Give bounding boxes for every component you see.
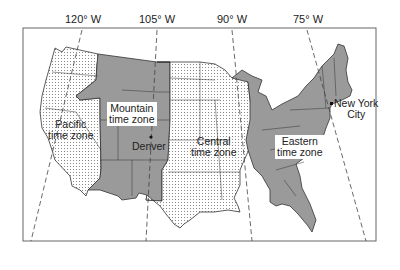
longitude-label-90w: 90° W bbox=[217, 13, 247, 25]
eastern-zone-label: Eastern time zone bbox=[275, 135, 325, 159]
new-york-label: New York City bbox=[334, 98, 378, 120]
time-zone-map: 120° W 105° W 90° W 75° W Pacific time z… bbox=[0, 0, 400, 270]
mountain-label-line2: time zone bbox=[109, 114, 155, 125]
pacific-zone-label: Pacific time zone bbox=[48, 119, 94, 141]
central-zone-label: Central time zone bbox=[191, 136, 237, 158]
new-york-marker bbox=[330, 102, 333, 105]
pacific-label-line2: time zone bbox=[48, 130, 94, 141]
longitude-label-75w: 75° W bbox=[293, 13, 323, 25]
denver-label: Denver bbox=[132, 141, 166, 152]
denver-marker bbox=[149, 135, 152, 138]
longitude-label-105w: 105° W bbox=[139, 13, 175, 25]
mountain-zone-label: Mountain time zone bbox=[107, 102, 157, 126]
central-label-line2: time zone bbox=[191, 147, 237, 158]
eastern-label-line2: time zone bbox=[277, 147, 323, 158]
longitude-label-120w: 120° W bbox=[65, 13, 101, 25]
new-york-line2: City bbox=[334, 109, 378, 120]
